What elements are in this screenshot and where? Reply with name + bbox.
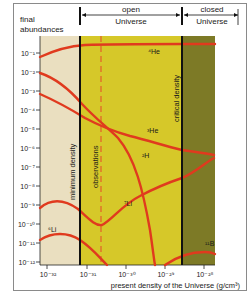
label-he4: ⁴He	[148, 48, 160, 55]
label-h2: ²H	[142, 152, 149, 159]
y-axis-title-line1: final	[20, 15, 35, 24]
x-ticks	[47, 265, 204, 269]
observations-label: observations	[91, 145, 100, 188]
y-tick-label: 10⁻⁸	[20, 183, 35, 190]
abundance-chart: 10⁻¹ 10⁻² 10⁻³ 10⁻⁴ 10⁻⁵ 10⁻⁶ 10⁻⁷ 10⁻⁸ …	[0, 0, 251, 295]
y-tick-label: 10⁻²	[21, 69, 36, 76]
y-tick-label: 10⁻³	[21, 88, 36, 95]
y-tick-label: 10⁻⁴	[20, 107, 35, 114]
critical-density-label: critical density	[172, 75, 181, 122]
x-tick-label: 10⁻²⁸	[196, 271, 213, 278]
label-li7: ⁷Li	[124, 200, 132, 207]
x-tick-label: 10⁻²⁹	[157, 271, 174, 278]
x-tick-label: 10⁻³⁰	[118, 271, 135, 278]
y-tick-label: 10⁻⁷	[21, 164, 36, 171]
label-b11: ¹¹B	[205, 240, 215, 247]
closed-universe-label-line1: closed	[200, 5, 223, 14]
open-universe-label-line1: open	[122, 5, 140, 14]
y-tick-label: 10⁻¹¹	[19, 240, 36, 247]
y-tick-label: 10⁻⁵	[20, 126, 35, 133]
label-li6: ⁶Li	[48, 226, 57, 233]
y-tick-label: 10⁻¹	[21, 50, 36, 57]
y-tick-label: 10⁻⁹	[20, 202, 35, 209]
x-tick-label: 10⁻³²	[40, 271, 57, 278]
minimum-density-label: minimum density	[68, 143, 77, 200]
open-universe-label-line2: Universe	[115, 17, 147, 26]
closed-universe-label-line2: Universe	[196, 17, 228, 26]
x-axis-title: present density of the Universe (g/cm³)	[111, 281, 241, 290]
x-tick-labels: 10⁻³² 10⁻³¹ 10⁻³⁰ 10⁻²⁹ 10⁻²⁸	[40, 271, 214, 278]
x-tick-label: 10⁻³¹	[80, 271, 97, 278]
y-tick-label: 10⁻¹²	[19, 259, 36, 266]
y-tick-labels: 10⁻¹ 10⁻² 10⁻³ 10⁻⁴ 10⁻⁵ 10⁻⁶ 10⁻⁷ 10⁻⁸ …	[18, 50, 36, 266]
y-tick-label: 10⁻¹⁰	[18, 221, 35, 228]
label-he3: ³He	[147, 127, 158, 134]
y-tick-label: 10⁻⁶	[20, 145, 35, 152]
y-ticks	[36, 53, 40, 262]
y-axis-title-line2: abundances	[20, 25, 64, 34]
